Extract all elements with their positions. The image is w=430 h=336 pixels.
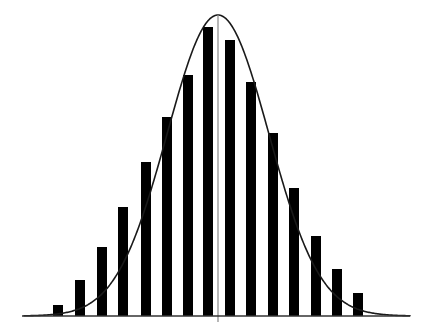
histogram-bar: [118, 207, 128, 316]
figure-background: [0, 0, 430, 336]
histogram-bar: [141, 162, 151, 316]
histogram-bar: [183, 75, 193, 316]
histogram-bar: [353, 293, 363, 316]
histogram-bar: [97, 247, 107, 316]
histogram-bar: [246, 82, 256, 316]
chart-canvas: [0, 0, 430, 336]
histogram-bar: [225, 40, 235, 316]
histogram-bar: [203, 27, 213, 316]
bell-curve-histogram-figure: [0, 0, 430, 336]
